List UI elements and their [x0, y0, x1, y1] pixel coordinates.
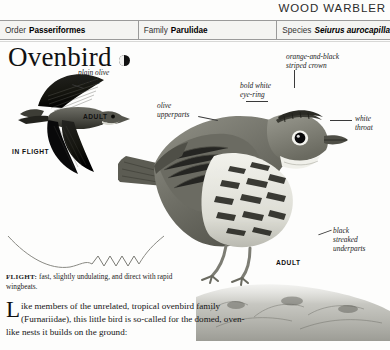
- callout-olive-upperparts: olive upperparts: [157, 101, 201, 119]
- taxonomy-family-key: Family: [144, 26, 168, 35]
- leader-line-throat: [330, 120, 352, 121]
- callout-bold-white-eye-ring: bold white eye-ring: [240, 81, 288, 99]
- taxonomy-species-key: Species: [282, 26, 311, 35]
- species-description: Like members of the unrelated, tropical …: [6, 300, 258, 339]
- callout-orange-and-black-striped-crown: orange-and-black striped crown: [286, 52, 352, 70]
- taxonomy-order: Order Passeriformes: [0, 21, 139, 39]
- drop-cap: L: [6, 301, 20, 319]
- flight-caption-label: FLIGHT:: [6, 273, 37, 281]
- tag-in-flight: IN FLIGHT: [12, 148, 49, 155]
- running-head: WOOD WARBLER: [279, 2, 387, 14]
- callout-black-streaked-underparts: black streaked underparts: [333, 226, 385, 253]
- taxonomy-species-value: Seiurus aurocapilla: [314, 26, 390, 35]
- callout-white-throat: white throat: [355, 114, 389, 132]
- flight-caption: FLIGHT: fast, slightly undulating, and d…: [6, 272, 186, 292]
- species-description-text: ike members of the unrelated, tropical o…: [6, 300, 258, 339]
- taxonomy-species: Species Seiurus aurocapilla: [277, 21, 390, 39]
- tag-perched-adult: ADULT: [276, 259, 301, 266]
- field-guide-page: WOOD WARBLER Order Passeriformes Family …: [0, 0, 390, 350]
- leader-line-eye-ring: [246, 101, 268, 102]
- illustration-plate: plain olive overall ADULT IN FLIGHT: [0, 56, 390, 296]
- taxonomy-bar: Order Passeriformes Family Parulidae Spe…: [0, 20, 390, 40]
- taxonomy-family: Family Parulidae: [139, 21, 278, 39]
- tag-flight-adult: ADULT: [83, 113, 108, 120]
- taxonomy-family-value: Parulidae: [171, 26, 208, 35]
- taxonomy-order-key: Order: [5, 26, 26, 35]
- leader-line-crown: [294, 70, 295, 88]
- flight-path-diagram: [6, 234, 166, 276]
- taxonomy-order-value: Passeriformes: [29, 26, 85, 35]
